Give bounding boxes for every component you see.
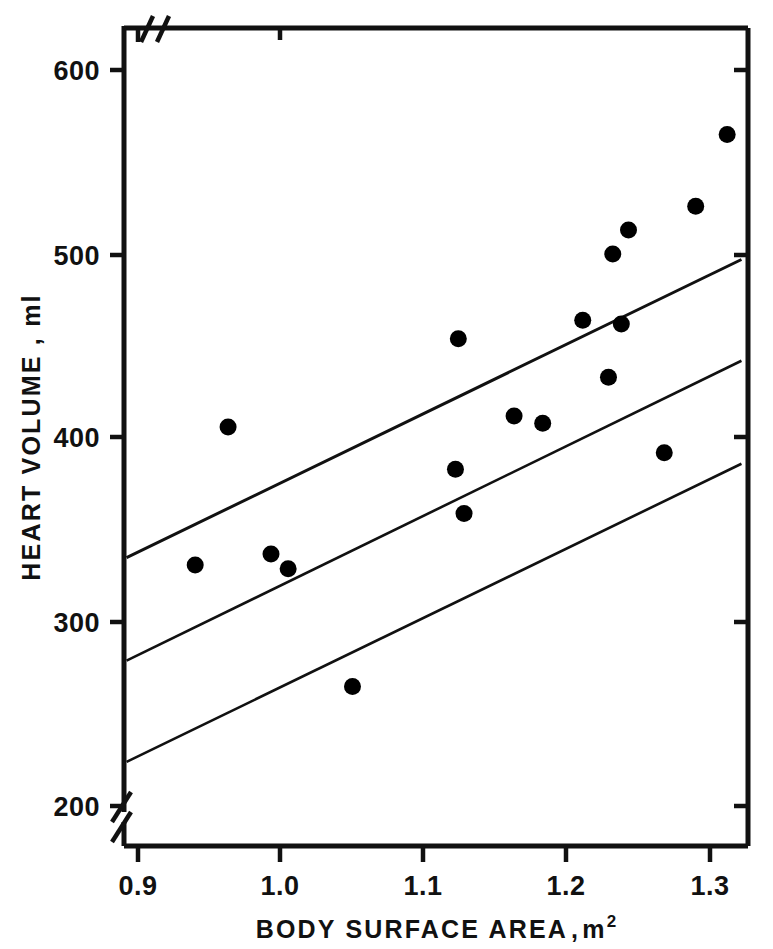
regression-lines <box>127 260 742 762</box>
data-point <box>262 545 279 562</box>
y-tick-labels: 600 500 400 300 200 <box>53 56 100 822</box>
data-point <box>604 246 621 263</box>
data-point <box>447 461 464 478</box>
data-point <box>450 330 467 347</box>
x-axis-title-sep: , <box>571 915 580 943</box>
x-tick-label-1-1: 1.1 <box>403 871 442 901</box>
y-tick-label-600: 600 <box>53 56 100 86</box>
data-point <box>600 369 617 386</box>
data-point <box>613 315 630 332</box>
x-tick-labels: 0.9 1.0 1.1 1.2 1.3 <box>118 871 729 901</box>
y-tick-label-200: 200 <box>53 792 100 822</box>
data-point <box>187 556 204 573</box>
y-tick-label-400: 400 <box>53 423 100 453</box>
data-point <box>220 418 237 435</box>
x-tick-label-1-3: 1.3 <box>690 871 729 901</box>
data-point <box>344 678 361 695</box>
data-point <box>620 222 637 239</box>
x-axis-title: BODY SURFACE AREA,m2 <box>256 912 619 943</box>
plot-frame <box>124 26 748 846</box>
x-axis-title-main: BODY SURFACE AREA <box>256 915 568 943</box>
figure-container: 600 500 400 300 200 0.9 1.0 1.1 1.2 1.3 … <box>0 0 773 949</box>
y-tick-label-300: 300 <box>53 608 100 638</box>
x-tick-label-0-9: 0.9 <box>118 871 157 901</box>
regression-line-0 <box>127 260 742 558</box>
x-axis-title-exponent: 2 <box>607 912 619 931</box>
axis-break-marks <box>112 16 169 842</box>
data-point <box>534 415 551 432</box>
x-axis-title-unit: m <box>582 915 606 943</box>
data-point <box>687 198 704 215</box>
y-tick-label-500: 500 <box>53 241 100 271</box>
data-point <box>280 560 297 577</box>
data-point <box>719 126 736 143</box>
x-tick-label-1-2: 1.2 <box>546 871 585 901</box>
x-tick-label-1-0: 1.0 <box>260 871 299 901</box>
regression-line-2 <box>127 464 742 762</box>
regression-line-1 <box>127 361 742 661</box>
data-points <box>187 126 736 695</box>
data-point <box>656 444 673 461</box>
data-point <box>506 407 523 424</box>
scatter-plot: 600 500 400 300 200 0.9 1.0 1.1 1.2 1.3 … <box>0 0 773 949</box>
y-axis-title: HEART VOLUME , ml <box>17 293 45 580</box>
data-point <box>574 312 591 329</box>
data-point <box>456 505 473 522</box>
